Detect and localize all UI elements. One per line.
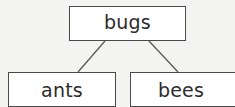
node-bees-label: bees <box>158 79 204 101</box>
node-bugs: bugs <box>69 6 186 41</box>
node-bugs-label: bugs <box>104 11 151 33</box>
edge-bugs-bees <box>149 41 178 72</box>
node-bees: bees <box>130 72 235 107</box>
edge-bugs-ants <box>78 41 105 72</box>
node-ants: ants <box>8 72 116 107</box>
node-ants-label: ants <box>41 79 83 101</box>
tree-diagram: bugs ants bees <box>0 0 235 107</box>
